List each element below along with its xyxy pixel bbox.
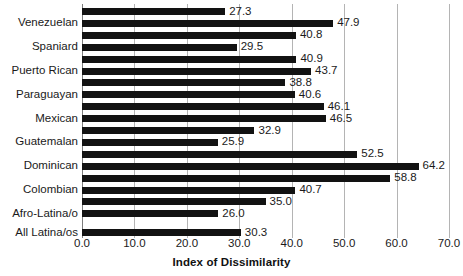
bar-value-label: 58.8 [394, 172, 416, 184]
bar-row: 29.5 [82, 44, 449, 51]
bar [82, 79, 285, 86]
bar-row: 40.9 [82, 56, 449, 63]
bar-value-label: 46.1 [328, 101, 350, 113]
bar [82, 175, 390, 182]
bar-value-label: 27.3 [229, 6, 251, 18]
bar-row: 35.0 [82, 198, 449, 205]
bar-row: 47.9 [82, 20, 449, 27]
bar-value-label: 32.9 [258, 125, 280, 137]
bar-row: 43.7 [82, 68, 449, 75]
bar-value-label: 46.5 [330, 113, 352, 125]
x-tick-10.0: 10.0 [123, 238, 145, 250]
bar [82, 115, 326, 122]
bar [82, 32, 296, 39]
bar-value-label: 47.9 [337, 18, 359, 30]
bar-value-label: 64.2 [423, 160, 445, 172]
bar-row: 40.6 [82, 91, 449, 98]
bar-row: 64.2 [82, 163, 449, 170]
bar-value-label: 40.6 [299, 89, 321, 101]
y-axis-label-afro-latina-o: Afro-Latina/o [12, 208, 78, 220]
y-axis-label-puerto-rican: Puerto Rican [12, 65, 78, 77]
x-tick-30.0: 30.0 [228, 238, 250, 250]
bar-row: 32.9 [82, 127, 449, 134]
y-axis-label-paraguayan: Paraguayan [16, 89, 78, 101]
bar-row: 38.8 [82, 79, 449, 86]
bar [82, 68, 311, 75]
bar-value-label: 40.8 [300, 30, 322, 42]
x-axis-title: Index of Dissimilarity [0, 256, 463, 268]
bar [82, 210, 218, 217]
bar-row: 26.0 [82, 210, 449, 217]
y-axis-label-all-latina-os: All Latina/os [15, 227, 78, 239]
bar [82, 187, 295, 194]
bar-value-label: 29.5 [241, 41, 263, 53]
bar-row: 30.3 [82, 229, 449, 236]
x-tick-60.0: 60.0 [385, 238, 407, 250]
y-axis-label-colombian: Colombian [23, 184, 78, 196]
x-axis-ticks: 0.010.020.030.040.050.060.070.0 [82, 238, 449, 254]
bar [82, 163, 419, 170]
bar [82, 229, 241, 236]
bar-chart: VenezuelanSpaniardPuerto RicanParaguayan… [0, 0, 463, 276]
x-tick-0.0: 0.0 [74, 238, 90, 250]
x-tick-70.0: 70.0 [438, 238, 460, 250]
bar-value-label: 40.9 [300, 53, 322, 65]
bar [82, 20, 333, 27]
y-axis-label-mexican: Mexican [35, 113, 78, 125]
x-tick-40.0: 40.0 [281, 238, 303, 250]
bar-row: 40.8 [82, 32, 449, 39]
y-axis-label-venezuelan: Venezuelan [18, 18, 78, 30]
x-tick-20.0: 20.0 [176, 238, 198, 250]
bar [82, 56, 296, 63]
bar [82, 91, 295, 98]
x-tick-50.0: 50.0 [333, 238, 355, 250]
bar [82, 44, 237, 51]
bar-value-label: 35.0 [270, 196, 292, 208]
bar [82, 8, 225, 15]
bar-value-label: 38.8 [289, 77, 311, 89]
bar-row: 46.1 [82, 103, 449, 110]
bar [82, 139, 218, 146]
bar-row: 46.5 [82, 115, 449, 122]
bar-value-label: 52.5 [361, 149, 383, 161]
bar [82, 151, 357, 158]
bar-row: 58.8 [82, 175, 449, 182]
y-axis-label-dominican: Dominican [24, 160, 78, 172]
bar-row: 52.5 [82, 151, 449, 158]
y-axis-category-labels: VenezuelanSpaniardPuerto RicanParaguayan… [0, 4, 78, 238]
plot-area: 27.347.940.829.540.943.738.840.646.146.5… [82, 4, 449, 238]
bar-value-label: 26.0 [222, 208, 244, 220]
y-axis-label-spaniard: Spaniard [32, 41, 78, 53]
bar-value-label: 43.7 [315, 65, 337, 77]
bar-value-label: 25.9 [222, 137, 244, 149]
bar-row: 25.9 [82, 139, 449, 146]
bar-row: 27.3 [82, 8, 449, 15]
y-axis-label-guatemalan: Guatemalan [15, 137, 78, 149]
bar-value-label: 40.7 [299, 184, 321, 196]
bar [82, 198, 266, 205]
bar-row: 40.7 [82, 187, 449, 194]
bar [82, 103, 324, 110]
gridline-70.0 [449, 4, 450, 238]
bar [82, 127, 254, 134]
